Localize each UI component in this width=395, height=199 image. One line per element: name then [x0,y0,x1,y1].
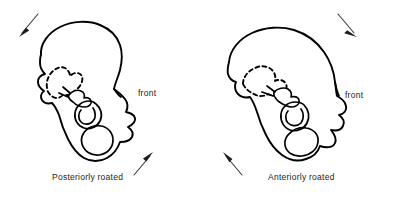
rotation-arrow-lower-left-icon [223,152,242,175]
front-label-left: front [138,88,156,98]
front-label-right: front [345,90,363,100]
caption-anteriorly-rotated: Anteriorly roated [268,172,335,182]
ilium-outline [38,22,135,161]
caption-posteriorly-rotated: Posteriorly roated [52,172,123,182]
panel-anterior-rotation [198,0,395,199]
rotation-arrow-upper-right-icon [338,14,357,37]
pelvic-rotation-figure: front front Posteriorly roated Anteriorl… [0,0,395,199]
panel-posterior-rotation [0,0,197,199]
rotation-arrow-upper-left-icon [19,14,38,37]
rotation-arrow-lower-right-icon [134,152,153,175]
